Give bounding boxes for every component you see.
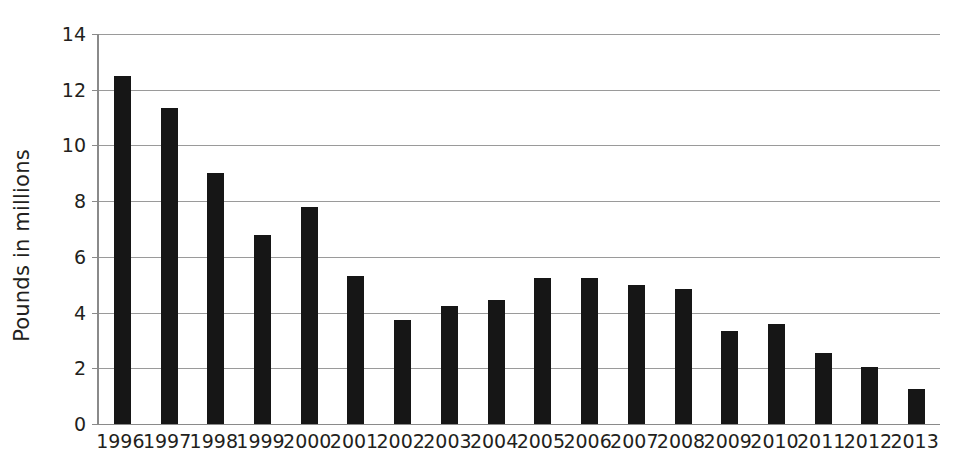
bar — [721, 331, 738, 424]
gridline — [99, 424, 940, 425]
gridline — [99, 90, 940, 91]
y-axis-tick-label: 10 — [62, 136, 86, 155]
x-axis-tick-label: 1996 — [96, 432, 144, 452]
x-axis-tick-label: 2004 — [470, 432, 518, 452]
y-axis-tick — [92, 257, 99, 258]
y-axis-tick — [92, 90, 99, 91]
bar — [768, 324, 785, 424]
bar — [815, 353, 832, 424]
bar-chart: Pounds in millions 02468101214 199619971… — [0, 0, 970, 473]
y-axis-tick-label: 8 — [74, 192, 86, 211]
y-axis-tick-label: 2 — [74, 359, 86, 378]
y-axis-tick-label: 6 — [74, 247, 86, 266]
x-axis-tick-label: 2006 — [563, 432, 611, 452]
bar — [488, 300, 505, 424]
bar — [861, 367, 878, 424]
bar — [254, 235, 271, 424]
y-axis-title: Pounds in millions — [0, 0, 44, 473]
bar — [534, 278, 551, 424]
y-axis-tick — [92, 34, 99, 35]
bar — [394, 320, 411, 424]
y-axis-tick — [92, 313, 99, 314]
x-axis-tick-label: 2000 — [283, 432, 331, 452]
y-axis-tick-label: 12 — [62, 80, 86, 99]
y-axis-tick — [92, 368, 99, 369]
y-axis-tick-label: 4 — [74, 303, 86, 322]
bar — [581, 278, 598, 424]
gridline — [99, 257, 940, 258]
x-axis-tick-label: 2008 — [657, 432, 705, 452]
y-axis-tick — [92, 145, 99, 146]
x-axis-tick-label: 2013 — [890, 432, 938, 452]
bar — [347, 276, 364, 424]
gridline — [99, 201, 940, 202]
x-axis-tick-label: 2010 — [750, 432, 798, 452]
bar — [301, 207, 318, 424]
y-axis-tick-label: 0 — [74, 415, 86, 434]
bar — [908, 389, 925, 424]
y-axis-tick-label: 14 — [62, 25, 86, 44]
x-axis-tick-label: 1999 — [236, 432, 284, 452]
x-axis-tick-label: 2012 — [844, 432, 892, 452]
gridline — [99, 34, 940, 35]
y-axis-title-label: Pounds in millions — [10, 149, 34, 342]
bar — [675, 289, 692, 424]
x-axis-tick-label: 2001 — [330, 432, 378, 452]
x-axis-tick-label: 2003 — [423, 432, 471, 452]
x-axis-labels: 1996199719981999200020012002200320042005… — [97, 432, 938, 462]
bar — [207, 173, 224, 424]
y-axis-tick — [92, 201, 99, 202]
x-axis-tick-label: 2005 — [517, 432, 565, 452]
x-axis-tick-label: 2007 — [610, 432, 658, 452]
x-axis-tick-label: 2009 — [704, 432, 752, 452]
y-axis-tick — [92, 424, 99, 425]
plot-area: 02468101214 — [97, 34, 940, 424]
x-axis-tick-label: 2011 — [797, 432, 845, 452]
gridline — [99, 313, 940, 314]
bar — [628, 285, 645, 424]
x-axis-tick-label: 1998 — [190, 432, 238, 452]
bar — [161, 108, 178, 424]
x-axis-tick-label: 1997 — [143, 432, 191, 452]
bar — [114, 76, 131, 424]
bar — [441, 306, 458, 424]
gridline — [99, 145, 940, 146]
x-axis-tick-label: 2002 — [377, 432, 425, 452]
